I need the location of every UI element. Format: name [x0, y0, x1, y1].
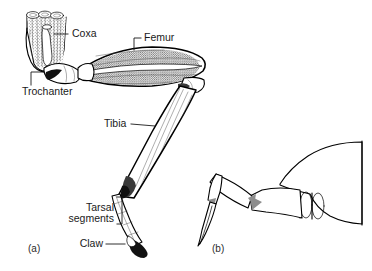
- label-tibia: Tibia: [104, 117, 127, 129]
- coxa-muscle-cut-ends: [27, 11, 64, 19]
- tibia-structure: [118, 86, 196, 198]
- panel-label-b: (b): [212, 243, 224, 254]
- panel-a-group: Coxa Femur Trochanter Tibia Tarsal segme…: [22, 10, 210, 258]
- trochanter-structure: [44, 64, 81, 84]
- label-claw: Claw: [80, 237, 104, 249]
- label-trochanter: Trochanter: [22, 85, 73, 97]
- leg-anatomy-illustration: Coxa Femur Trochanter Tibia Tarsal segme…: [0, 0, 372, 271]
- figure-root: Coxa Femur Trochanter Tibia Tarsal segme…: [0, 0, 372, 271]
- label-femur: Femur: [144, 31, 175, 43]
- label-coxa: Coxa: [72, 27, 97, 39]
- label-tarsal-line2: segments: [68, 212, 114, 224]
- tibia-leader: [131, 124, 155, 126]
- panel-label-a: (a): [28, 243, 40, 254]
- panel-b-group: (b): [198, 141, 362, 254]
- trochanter-leader: [31, 72, 44, 85]
- femur-proximal-joint: [78, 64, 94, 81]
